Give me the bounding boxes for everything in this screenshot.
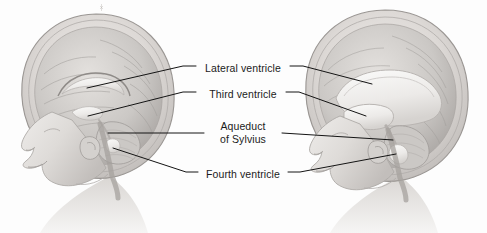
scan-speck-mark	[100, 4, 103, 11]
left-ear	[80, 137, 100, 160]
left-head-illustration	[22, 14, 175, 233]
label-aqueduct-of-sylvius: Aqueduct of Sylvius	[220, 120, 266, 145]
label-lateral-ventricle: Lateral ventricle	[205, 62, 281, 75]
illustration-canvas	[0, 0, 487, 233]
label-aqueduct-line-2: of Sylvius	[220, 133, 266, 146]
label-fourth-ventricle: Fourth ventricle	[206, 168, 280, 181]
right-head-illustration	[306, 10, 468, 233]
label-aqueduct-line-1: Aqueduct	[220, 120, 266, 133]
label-third-ventricle: Third ventricle	[209, 88, 276, 101]
right-ear	[368, 141, 388, 164]
left-neck	[40, 176, 148, 233]
ventricular-system-figure: Lateral ventricle Third ventricle Aquedu…	[0, 0, 487, 233]
